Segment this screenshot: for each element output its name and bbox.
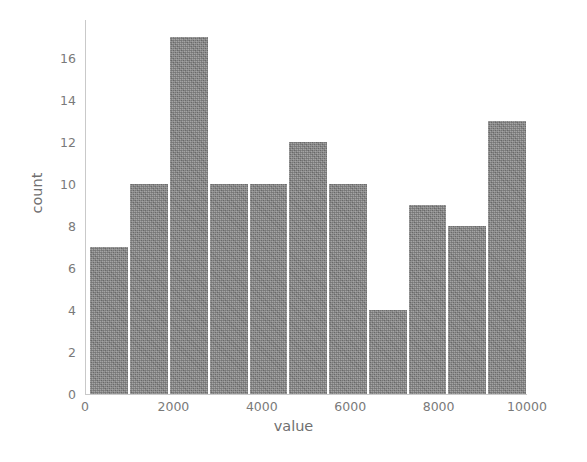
x-axis-spine: [85, 394, 527, 395]
y-tick-label-group: 0246810121416: [48, 0, 76, 462]
y-tick-label: 2: [68, 344, 76, 359]
plot-area: [89, 20, 525, 394]
histogram-bar: [249, 184, 289, 394]
histogram-bar: [169, 37, 209, 394]
y-tick-label: 8: [68, 218, 76, 233]
histogram-bar: [209, 184, 249, 394]
histogram-bar: [288, 142, 328, 394]
x-tick-label: 8000: [423, 399, 455, 414]
histogram-bar: [368, 310, 408, 394]
y-tick-label: 14: [60, 92, 76, 107]
histogram-bar: [328, 184, 368, 394]
x-tick-label: 10000: [507, 399, 547, 414]
y-tick-label: 6: [68, 260, 76, 275]
histogram-figure: 0246810121416 0200040006000800010000 val…: [0, 0, 587, 462]
y-tick-label: 12: [60, 134, 76, 149]
histogram-bar: [129, 184, 169, 394]
x-axis-label: value: [0, 418, 587, 434]
x-tick-label: 4000: [246, 399, 278, 414]
x-tick-label: 6000: [334, 399, 366, 414]
y-axis-spine: [85, 20, 86, 395]
histogram-bar: [89, 247, 129, 394]
y-tick-label: 10: [60, 176, 76, 191]
histogram-bar: [408, 205, 448, 394]
y-axis-label: count: [29, 148, 45, 238]
x-tick-label: 0: [81, 399, 89, 414]
histogram-bar: [487, 121, 527, 394]
histogram-bar: [447, 226, 487, 394]
y-tick-label: 4: [68, 302, 76, 317]
x-tick-label: 2000: [157, 399, 189, 414]
y-tick-label: 16: [60, 50, 76, 65]
